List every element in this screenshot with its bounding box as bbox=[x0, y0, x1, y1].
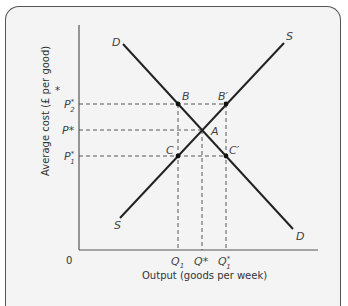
demand-label-top: D bbox=[112, 36, 120, 49]
point-a-label: A bbox=[210, 125, 219, 138]
point-b bbox=[176, 102, 181, 107]
p1-star-label: P*1 bbox=[64, 150, 75, 166]
y-axis-star: * bbox=[55, 85, 60, 96]
point-c-label: C bbox=[166, 144, 174, 157]
y-axis-title: Average cost (£ per good) bbox=[40, 46, 51, 176]
origin-label: 0 bbox=[66, 255, 72, 266]
p2-star-label: P*2 bbox=[64, 98, 75, 114]
point-c-prime-label: C′ bbox=[229, 144, 240, 157]
q-star-label: Q* bbox=[194, 255, 209, 268]
point-c bbox=[176, 154, 181, 159]
demand-curve bbox=[123, 44, 293, 229]
point-b-label: B bbox=[182, 90, 190, 103]
point-c-prime bbox=[224, 154, 229, 159]
q1-label: Q1 bbox=[171, 255, 184, 270]
guide-lines bbox=[79, 104, 226, 250]
demand-label-bottom: D bbox=[296, 230, 304, 243]
point-b-prime-label: B′ bbox=[218, 90, 229, 103]
p-star-label: P* bbox=[62, 124, 75, 137]
supply-label-bottom: S bbox=[114, 219, 121, 232]
q1-star-label: Q*1 bbox=[218, 255, 231, 271]
supply-label-top: S bbox=[286, 30, 293, 43]
x-axis-title: Output (goods per week) bbox=[142, 270, 267, 281]
